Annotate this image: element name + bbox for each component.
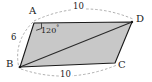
figure-canvas — [0, 0, 152, 82]
vertex-dot-B — [19, 66, 22, 69]
angle-label-A: 120° — [41, 24, 59, 35]
vertex-dot-D — [131, 21, 133, 23]
geometry-figure: A D C B 10 6 10 120° — [0, 0, 152, 82]
length-label-AD: 10 — [72, 2, 85, 11]
vertex-label-A: A — [29, 6, 36, 16]
vertex-label-C: C — [118, 60, 126, 70]
length-label-AB: 6 — [10, 33, 17, 42]
angle-value: 120 — [41, 26, 56, 35]
length-label-BC: 10 — [59, 70, 72, 79]
degree-symbol-icon: ° — [56, 23, 59, 30]
vertex-label-B: B — [6, 59, 13, 69]
vertex-label-D: D — [136, 14, 144, 24]
